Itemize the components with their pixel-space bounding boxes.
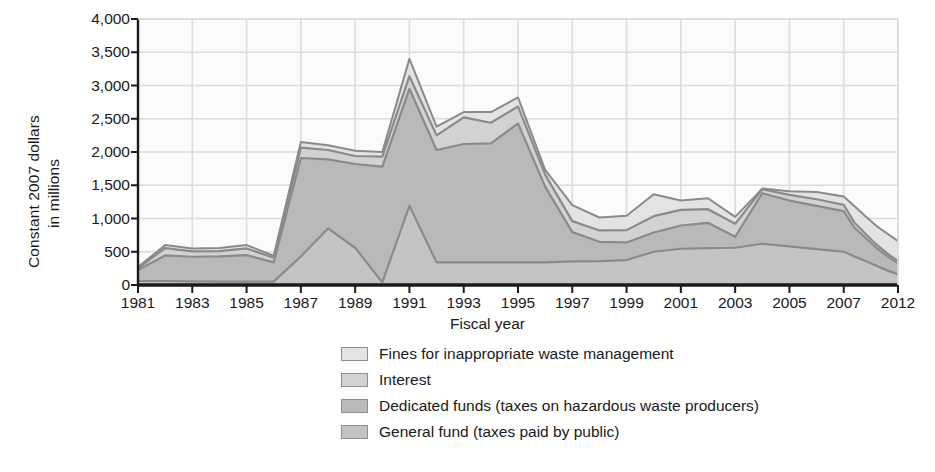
legend-item: Interest [341,367,901,393]
x-tick-label: 1993 [446,295,480,311]
chart-figure: Constant 2007 dollars in millions 05001,… [0,0,935,472]
x-tick-label: 2003 [718,295,752,311]
x-tick-label: 2001 [664,295,698,311]
chart-legend: Fines for inappropriate waste management… [341,341,901,445]
x-tick-label: 2007 [826,295,860,311]
x-tick-label: 1987 [284,295,318,311]
legend-swatch [341,399,368,413]
x-tick-label: 1985 [229,295,263,311]
x-tick-label: 1991 [392,295,426,311]
legend-swatch [341,347,368,361]
x-tick-label: 2005 [772,295,806,311]
x-tick-label: 1997 [555,295,589,311]
legend-label: Interest [379,371,431,389]
x-tick-label: 1989 [338,295,372,311]
plot-area [0,0,935,300]
x-axis-title-text: Fiscal year [450,315,525,332]
legend-item: Fines for inappropriate waste management [341,341,901,367]
legend-swatch [341,373,368,387]
legend-label: General fund (taxes paid by public) [379,423,619,441]
x-tick-label: 1983 [175,295,209,311]
legend-swatch [341,425,368,439]
legend-label: Dedicated funds (taxes on hazardous wast… [379,397,759,415]
x-axis-title: Fiscal year [0,315,935,333]
x-tick-label: 2012 [881,295,915,311]
x-tick-label: 1999 [609,295,643,311]
x-axis-tick-labels: 1981198319851987198919911993199519971999… [0,289,935,315]
x-tick-label: 1981 [121,295,155,311]
legend-label: Fines for inappropriate waste management [379,345,674,363]
legend-item: General fund (taxes paid by public) [341,419,901,445]
legend-item: Dedicated funds (taxes on hazardous wast… [341,393,901,419]
x-tick-label: 1995 [501,295,535,311]
